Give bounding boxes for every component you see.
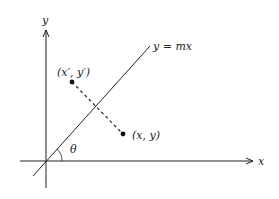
- line-y-equals-mx: [33, 46, 150, 176]
- original-point-label: (x, y): [132, 129, 160, 142]
- y-axis-label: y: [41, 14, 49, 27]
- line-label: y = mx: [152, 40, 193, 53]
- angle-arc: [57, 149, 62, 161]
- reflection-diagram: y x y = mx θ (x′, y′) (x, y): [0, 0, 279, 199]
- reflected-point-label: (x′, y′): [57, 66, 90, 79]
- angle-label: θ: [70, 143, 77, 156]
- point-reflected: [70, 80, 75, 85]
- point-original: [121, 132, 126, 137]
- x-axis-label: x: [258, 155, 265, 168]
- perpendicular-dashed-segment: [72, 82, 123, 134]
